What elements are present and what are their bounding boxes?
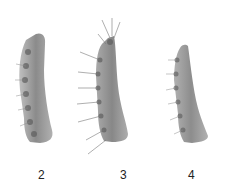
specimen-4-image — [162, 40, 212, 148]
panel-label-3: 3 — [120, 169, 127, 181]
panel-label-4: 4 — [188, 169, 195, 181]
specimen-2-image — [10, 30, 55, 148]
figure-panel: 2 3 4 — [0, 0, 226, 194]
panel-label-2: 2 — [38, 169, 45, 181]
specimen-3-image — [76, 16, 134, 158]
